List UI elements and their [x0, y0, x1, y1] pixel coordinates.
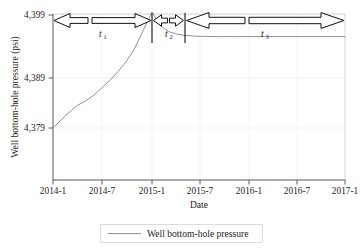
segment-label-t2: t	[165, 29, 168, 39]
segment-label-t3-subscript: 3	[266, 33, 269, 40]
well-pressure-line-chart: 4,399 4,389 4,379 2014-1 2014-7 2015-1 2…	[0, 0, 362, 249]
x-axis-ticks	[53, 180, 345, 185]
x-axis-title: Date	[190, 199, 208, 210]
segment-label-t3: t	[261, 29, 264, 39]
y-tick-label-0: 4,399	[24, 10, 45, 20]
chart-figure: 4,399 4,389 4,379 2014-1 2014-7 2015-1 2…	[0, 0, 362, 249]
y-axis-ticks	[49, 15, 54, 128]
y-tick-label-2: 4,379	[24, 123, 45, 133]
segment-label-t1: t	[99, 29, 102, 39]
y-axis-title: Well bottom-hole pressure (psi)	[9, 36, 21, 158]
x-tick-label-1: 2014-7	[89, 186, 116, 196]
plot-background	[53, 14, 345, 180]
legend: Well bottom-hole pressure	[101, 225, 263, 243]
x-tick-label-6: 2017-1	[332, 186, 359, 196]
x-tick-label-3: 2015-7	[187, 186, 214, 196]
segment-label-t2-subscript: 2	[170, 33, 173, 40]
y-tick-label-1: 4,389	[24, 73, 45, 83]
x-tick-label-2: 2015-1	[139, 186, 166, 196]
segment-label-t1-subscript: 1	[104, 33, 107, 40]
x-tick-label-4: 2016-1	[236, 186, 263, 196]
legend-label-well-bottom-hole-pressure: Well bottom-hole pressure	[147, 228, 249, 239]
x-tick-label-0: 2014-1	[40, 186, 67, 196]
x-tick-label-5: 2016-7	[284, 186, 311, 196]
